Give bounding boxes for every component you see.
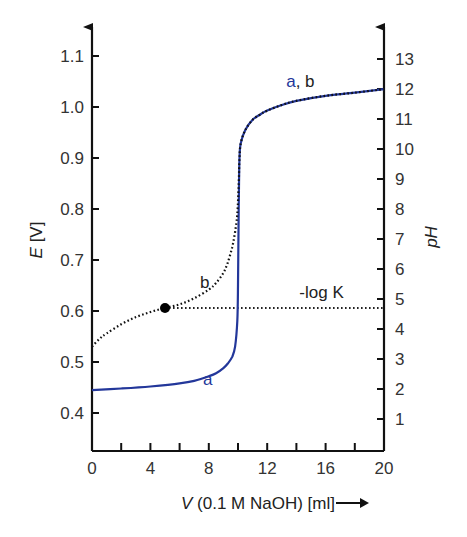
x-tick-label: 8 <box>204 459 213 478</box>
y-tick-label: 1.1 <box>60 47 84 66</box>
half-equivalence-marker <box>160 303 170 313</box>
y2-tick-label: 11 <box>395 110 413 129</box>
x-axis-title: V (0.1 M NaOH) [ml] <box>181 494 369 513</box>
y-tick-label: 0.5 <box>60 353 84 372</box>
y2-tick-label: 7 <box>395 230 404 249</box>
y-axis-title: E [V] <box>27 222 46 259</box>
y-tick-label: 0.7 <box>60 251 84 270</box>
right-y-axis: 12345678910111213 <box>377 27 414 451</box>
y2-tick-label: 8 <box>395 200 404 219</box>
half-equivalence-dot <box>160 303 170 313</box>
curve-label-b: b <box>200 273 209 292</box>
y2-axis-title: pH <box>422 225 441 248</box>
curve-annotations: a, bba-log K <box>200 72 344 389</box>
y2-tick-label: 3 <box>395 350 404 369</box>
y2-tick-label: 2 <box>395 380 404 399</box>
y-tick-label: 0.9 <box>60 149 84 168</box>
titration-chart: 0.40.50.60.70.80.91.01.1 123456789101112… <box>0 0 467 537</box>
series-a-curve <box>92 89 384 390</box>
y-tick-label: 0.8 <box>60 200 84 219</box>
x-axis-title-text: V (0.1 M NaOH) [ml] <box>181 494 335 513</box>
label-part: , b <box>296 72 315 91</box>
y2-tick-label: 6 <box>395 260 404 279</box>
y2-tick-label: 4 <box>395 320 404 339</box>
x-tick-label: 0 <box>87 459 96 478</box>
y2-tick-label: 10 <box>395 140 414 159</box>
x-tick-label: 12 <box>258 459 277 478</box>
y2-tick-label: 13 <box>395 50 414 69</box>
curve-label-a: a <box>203 370 213 389</box>
x-tick-label: 4 <box>146 459 155 478</box>
left-y-axis: 0.40.50.60.70.80.91.01.1 <box>60 27 99 451</box>
y-tick-label: 0.4 <box>60 404 84 423</box>
x-axis: 048121620 <box>87 443 393 478</box>
curve-label-a-b: a, b <box>286 72 314 91</box>
y2-tick-label: 12 <box>395 80 414 99</box>
y-tick-label: 0.6 <box>60 302 84 321</box>
y2-axis-title-text: pH <box>422 225 441 248</box>
series-layer <box>92 89 384 390</box>
y2-tick-label: 1 <box>395 410 404 429</box>
y-tick-label: 1.0 <box>60 98 84 117</box>
y2-tick-label: 9 <box>395 170 404 189</box>
y-axis-title-text: E [V] <box>27 222 46 259</box>
curve-label-log-k: -log K <box>299 283 344 302</box>
arrow-right-icon <box>360 498 369 508</box>
x-tick-label: 16 <box>316 459 335 478</box>
y2-tick-label: 5 <box>395 290 404 309</box>
x-tick-label: 20 <box>375 459 394 478</box>
